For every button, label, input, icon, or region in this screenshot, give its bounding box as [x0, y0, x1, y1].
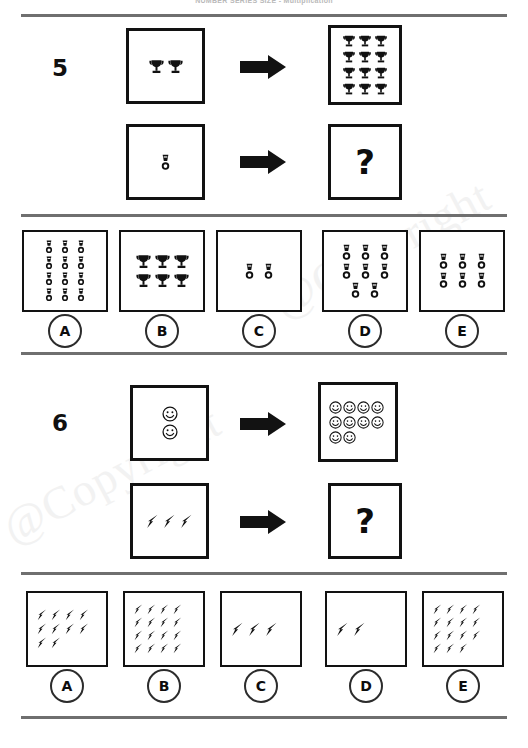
- icon-grid: [324, 232, 406, 310]
- q6-option-b-box[interactable]: [123, 591, 205, 667]
- right-arrow-icon: [240, 55, 286, 83]
- icon-row: [42, 256, 88, 270]
- trophy-icon: [374, 82, 388, 96]
- page-header: NUMBER SERIES SIZE - Multiplication: [0, 0, 528, 8]
- bolt-icon: [445, 630, 456, 641]
- medal-icon: [42, 240, 56, 254]
- icon-grid: [421, 232, 503, 310]
- medal-icon: [42, 288, 56, 302]
- q5-row2-left-box: [126, 124, 205, 200]
- trophy-icon: [374, 34, 388, 48]
- q6-option-c-box[interactable]: [220, 591, 302, 667]
- smiley-icon: [343, 416, 356, 429]
- q6-option-b-label[interactable]: B: [147, 669, 181, 703]
- icon-row: [338, 263, 393, 280]
- trophy-icon: [342, 34, 356, 48]
- q5-option-e-box[interactable]: [419, 230, 505, 312]
- q5-option-c-label[interactable]: C: [242, 314, 276, 348]
- bolt-icon: [458, 630, 469, 641]
- icon-grid: [331, 28, 399, 102]
- icon-row: [133, 604, 183, 615]
- icon-row: [335, 622, 367, 637]
- medal-icon: [435, 253, 452, 270]
- trophy-icon: [374, 50, 388, 64]
- icon-grid: [321, 385, 395, 459]
- q6-option-d-label[interactable]: D: [349, 669, 383, 703]
- medal-icon: [58, 256, 72, 270]
- icon-row: [338, 244, 393, 261]
- bolt-icon: [445, 617, 456, 628]
- q5-option-b-label[interactable]: B: [145, 314, 179, 348]
- trophy-icon: [342, 66, 356, 80]
- q6-option-c-label[interactable]: C: [244, 669, 278, 703]
- q5-row1-right-box: [328, 25, 402, 105]
- bolt-icon: [36, 637, 48, 649]
- q6-option-e-box[interactable]: [422, 591, 504, 667]
- q6-option-e-label[interactable]: E: [446, 669, 480, 703]
- bolt-icon: [162, 514, 177, 529]
- medal-icon: [74, 256, 88, 270]
- icon-row: [36, 609, 90, 621]
- bolt-icon: [458, 604, 469, 615]
- bolt-icon: [471, 604, 482, 615]
- bolt-icon: [133, 604, 144, 615]
- medal-icon: [347, 282, 364, 299]
- q5-option-c-box[interactable]: [216, 230, 302, 312]
- bolt-icon: [133, 643, 144, 654]
- q5-option-d-box[interactable]: [322, 230, 408, 312]
- medal-icon: [74, 272, 88, 286]
- trophy-icon: [342, 50, 356, 64]
- q5-option-e-label[interactable]: E: [445, 314, 479, 348]
- q5-answer-box: ?: [328, 124, 402, 200]
- q5-option-d-label[interactable]: D: [348, 314, 382, 348]
- trophy-icon: [173, 253, 190, 270]
- smiley-icon: [343, 401, 356, 414]
- q6-answer-box: ?: [328, 483, 402, 559]
- bolt-icon: [352, 622, 367, 637]
- question-number-5: 5: [52, 55, 68, 81]
- bolt-icon: [172, 630, 183, 641]
- icon-row: [347, 282, 383, 299]
- icon-grid: [222, 593, 300, 665]
- q6-option-a-label[interactable]: A: [50, 669, 84, 703]
- medal-icon: [42, 256, 56, 270]
- icon-grid: [121, 232, 203, 310]
- question-number-6: 6: [52, 410, 68, 436]
- trophy-icon: [167, 58, 184, 75]
- bolt-icon: [78, 623, 90, 635]
- icon-row: [36, 623, 90, 635]
- q5-option-a-label[interactable]: A: [48, 314, 82, 348]
- bolt-icon: [146, 617, 157, 628]
- bolt-icon: [432, 617, 443, 628]
- icon-grid: [424, 593, 502, 665]
- smiley-icon: [162, 424, 178, 440]
- q6-option-d-box[interactable]: [325, 591, 407, 667]
- bolt-icon: [458, 617, 469, 628]
- bolt-icon: [133, 617, 144, 628]
- q5-option-a-box[interactable]: [22, 230, 108, 312]
- bolt-icon: [146, 643, 157, 654]
- icon-grid: [327, 593, 405, 665]
- icon-row: [135, 272, 190, 289]
- icon-row: [145, 514, 194, 529]
- medal-icon: [435, 272, 452, 289]
- bolt-icon: [50, 623, 62, 635]
- icon-row: [230, 622, 279, 637]
- medal-icon: [454, 272, 471, 289]
- bolt-icon: [445, 604, 456, 615]
- trophy-icon: [342, 82, 356, 96]
- bolt-icon: [133, 630, 144, 641]
- worksheet-page: NUMBER SERIES SIZE - Multiplication @Cop…: [0, 0, 528, 748]
- icon-row: [133, 617, 183, 628]
- bolt-icon: [64, 609, 76, 621]
- smiley-icon: [343, 431, 356, 444]
- right-arrow-icon: [240, 510, 286, 538]
- bolt-icon: [230, 622, 245, 637]
- q6-option-a-box[interactable]: [26, 591, 108, 667]
- q5-option-b-box[interactable]: [119, 230, 205, 312]
- section-divider: [21, 352, 507, 355]
- icon-row: [133, 630, 183, 641]
- section-divider: [21, 716, 507, 719]
- icon-row: [342, 34, 388, 48]
- icon-grid: [125, 593, 203, 665]
